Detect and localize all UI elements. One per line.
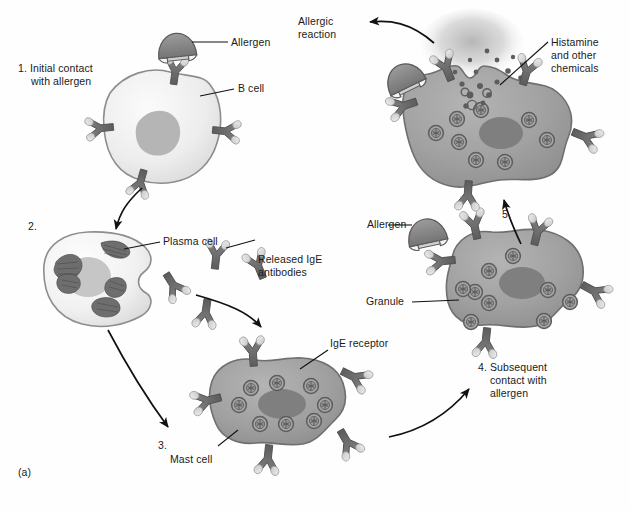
- mast-cell-3-group: [187, 334, 376, 477]
- arrow-step3-to-step4: [389, 389, 469, 437]
- mast-cell-4-group: [405, 205, 617, 360]
- panel-label: (a): [18, 466, 31, 479]
- step-1-label-line2: with allergen: [31, 75, 91, 88]
- allergic-reaction-label-line2: reaction: [298, 28, 336, 41]
- mast-cell-3-nucleus: [258, 389, 306, 419]
- mast-cell-label: Mast cell: [170, 453, 212, 466]
- released-ige-antibodies-group: [155, 237, 276, 332]
- step-2-label: 2.: [28, 220, 37, 233]
- released-ige-label-line2: antibodies: [258, 266, 307, 279]
- plasma-cell-label: Plasma cell: [163, 235, 218, 248]
- plasma-cell-group: [44, 232, 151, 327]
- mast-cell-4-nucleus: [499, 267, 545, 299]
- mast-cell-3-ige-receptor: [252, 443, 283, 477]
- step-3-label: 3.: [158, 439, 167, 452]
- arrow-step2-to-step3: [108, 330, 168, 427]
- allergen-bound-bcell: [156, 31, 197, 63]
- step-5-label: 5.: [502, 208, 511, 221]
- allergen-right-label: Allergen: [367, 218, 406, 231]
- free-ige-antibody: [190, 297, 221, 331]
- step-4-label: 4. Subsequent: [478, 361, 547, 374]
- b-cell-group: [83, 31, 243, 201]
- b-cell-label: B cell: [238, 82, 264, 95]
- mast-cell-5-ige-receptor: [567, 119, 606, 157]
- mast-cell-5-nucleus: [479, 117, 523, 149]
- leader-released-ige: [226, 240, 255, 248]
- histamine-label-line1: Histamine: [551, 36, 599, 49]
- released-ige-label-line1: Released IgE: [258, 253, 322, 266]
- histamine-label-line3: chemicals: [551, 62, 599, 75]
- granule-label: Granule: [366, 295, 404, 308]
- figure-panel: 1. Initial contact with allergen Allerge…: [0, 0, 630, 511]
- ige-receptor-label: IgE receptor: [330, 337, 388, 350]
- histamine-label-line2: and other: [551, 49, 596, 62]
- step-1-label: 1. Initial contact: [18, 62, 93, 75]
- step-4-label-line2: contact with: [490, 374, 547, 387]
- allergen-top-label: Allergen: [231, 36, 270, 49]
- free-ige-antibody: [155, 266, 195, 307]
- allergic-reaction-label-line1: Allergic: [298, 15, 333, 28]
- mast-cell-4-ige-receptor: [470, 326, 501, 360]
- mast-cell-3-ige-receptor: [328, 423, 368, 464]
- step-4-label-line3: allergen: [490, 387, 528, 400]
- allergen-approaching: [405, 215, 449, 252]
